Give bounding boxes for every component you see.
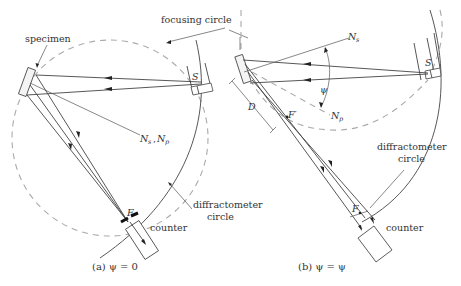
diffracted-ray-3-b [248,72,362,229]
psi-arc [321,48,330,107]
arrow-diff-4-b [358,225,362,231]
psi-label: ψ [320,84,328,95]
normal-s-line-b [244,38,349,72]
specimen-label: specimen [25,33,71,44]
incident-ray-upper-b [243,60,428,73]
focusing-circle-leader-b [229,30,248,38]
psi-arrow-top [324,47,328,53]
focus-label-b: F [351,203,359,214]
diffractometer-label-b-line1: diffractometer [377,141,447,152]
specimen-a [18,67,35,96]
diffracted-ray-2-b [252,80,375,220]
panel-a: specimen focusing circle S N s , N p F c… [12,14,263,272]
focus-label-a: F [126,207,134,218]
diffractometer-label-b-line2: circle [398,153,425,164]
diffracted-ray-2-a [36,75,128,222]
diffractometer-label-a-line1: diffractometer [193,199,263,210]
normal-p-sub-b: p [339,115,344,123]
normals-label-a: N s , N p [139,133,170,146]
caption-a: (a) ψ = 0 [92,261,138,272]
arrow-upper-a [104,76,112,80]
source-label-a: S [192,71,199,82]
specimen-leader-arrow-a [36,63,40,68]
focus-b-point [359,212,362,215]
diffracted-ray-1-a [27,95,128,222]
counter-label-a: counter [150,222,188,233]
diffracted-ray-3-a [30,85,128,222]
arrow-upper-b [303,62,311,66]
caption-b: (b) ψ = ψ [298,261,346,272]
source-a [187,63,213,95]
distance-d-label: D [247,101,256,112]
svg-text:p: p [165,138,170,146]
svg-text:s: s [148,138,152,146]
focusing-circle-label: focusing circle [161,14,232,25]
focusing-circle-leader [168,28,225,42]
diffractometer-geometry-figure: specimen focusing circle S N s , N p F c… [0,0,461,286]
specimen-leader-a [37,45,47,66]
figure-canvas: specimen focusing circle S N s , N p F c… [0,0,461,286]
focus-prime-label: F′ [287,109,298,120]
focusing-circle-leader-arrow [166,40,171,44]
incident-ray-lower-b [250,74,428,83]
incident-ray-upper-a [36,75,201,82]
incident-ray-lower-a [27,84,201,95]
arrow-diff-2-b [328,160,332,167]
normal-s-sub-b: s [356,36,360,44]
normals-line-a [30,83,140,135]
diffractometer-circle-b [362,10,441,222]
panel-b: N s N p ψ D F′ S diffractometer circle F… [229,10,447,272]
counter-label-b: counter [386,222,424,233]
arrow-lower-b [303,78,311,82]
diffractometer-leader-a [170,184,192,209]
arrow-diff-2-a [76,131,80,138]
diffractometer-label-a-line2: circle [207,211,234,222]
focusing-circle-a [12,40,208,236]
diffractometer-leader-b [370,170,404,208]
source-label-b: S [425,57,432,68]
svg-text:,: , [153,133,156,144]
